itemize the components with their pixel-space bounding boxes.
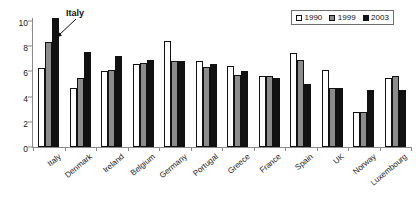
bar-germany-2003 xyxy=(178,61,185,147)
x-axis-tick-mark xyxy=(348,147,349,151)
x-axis-label-ireland: Ireland xyxy=(101,152,126,175)
hollow-square-icon xyxy=(296,15,302,21)
x-axis-label-germany: Germany xyxy=(158,152,189,180)
x-axis-tick-mark xyxy=(254,147,255,151)
x-axis-label-france: France xyxy=(258,152,283,175)
y-axis-tick-label: 0 xyxy=(23,144,32,154)
x-axis-label-italy: Italy xyxy=(46,152,63,168)
bar-luxembourg-1999 xyxy=(392,76,399,147)
black-square-icon xyxy=(363,15,369,21)
bar-italy-1990 xyxy=(38,68,45,147)
bar-luxembourg-1990 xyxy=(385,78,392,147)
y-axis-tick: 6 xyxy=(0,62,32,80)
legend-item-2003: 2003 xyxy=(363,13,389,22)
bar-group xyxy=(380,18,412,147)
x-axis-tick-mark xyxy=(222,147,223,151)
bar-spain-1990 xyxy=(290,53,297,148)
legend-item-label: 1999 xyxy=(338,13,356,22)
bar-norway-1999 xyxy=(360,112,367,147)
y-axis-tick-mark xyxy=(28,121,32,122)
bar-spain-1999 xyxy=(297,60,304,147)
y-axis-tick-mark xyxy=(28,147,32,148)
y-axis-tick-label: 6 xyxy=(23,68,32,78)
y-axis-tick-mark xyxy=(28,46,32,47)
y-axis-tick-label: 10 xyxy=(19,18,32,28)
bar-ireland-2003 xyxy=(115,56,122,147)
x-axis-tick-mark xyxy=(317,147,318,151)
bar-denmark-1990 xyxy=(70,88,77,147)
bar-uk-1999 xyxy=(329,88,336,147)
x-axis-tick-mark xyxy=(33,147,34,151)
bar-italy-1999 xyxy=(45,42,52,147)
bar-france-1990 xyxy=(259,76,266,147)
bar-portugal-1990 xyxy=(196,61,203,147)
bar-denmark-2003 xyxy=(84,52,91,147)
bar-denmark-1999 xyxy=(77,78,84,147)
bar-spain-2003 xyxy=(304,84,311,147)
bar-uk-2003 xyxy=(336,88,343,147)
x-axis-tick-mark xyxy=(411,147,412,151)
bar-group xyxy=(65,18,97,147)
x-axis-tick-mark xyxy=(96,147,97,151)
plot-area xyxy=(33,18,411,147)
bar-greece-1999 xyxy=(234,75,241,147)
bar-chart: 1086420 ItalyDenmarkIrelandBelgiumGerman… xyxy=(0,0,416,207)
y-axis-tick: 10 xyxy=(0,12,32,30)
bar-ireland-1999 xyxy=(108,70,115,147)
y-axis-tick-label: 2 xyxy=(23,119,32,129)
x-axis-label-norway: Norway xyxy=(351,152,378,176)
x-axis-tick-mark xyxy=(65,147,66,151)
y-axis-tick-mark xyxy=(28,96,32,97)
legend: 199019992003 xyxy=(291,10,394,25)
x-axis-label-portugal: Portugal xyxy=(191,152,220,178)
bar-group xyxy=(254,18,286,147)
y-axis-tick: 2 xyxy=(0,113,32,131)
y-axis-tick-mark xyxy=(28,21,32,22)
bar-norway-2003 xyxy=(367,90,374,147)
bar-group xyxy=(222,18,254,147)
bar-france-2003 xyxy=(273,78,280,147)
bar-portugal-2003 xyxy=(210,64,217,147)
y-axis-tick: 8 xyxy=(0,37,32,55)
bar-norway-1990 xyxy=(353,112,360,147)
bar-germany-1999 xyxy=(171,61,178,147)
annotation-label-italy: Italy xyxy=(66,8,84,18)
x-axis-label-belgium: Belgium xyxy=(129,152,157,177)
bar-group xyxy=(128,18,160,147)
bar-belgium-1990 xyxy=(133,64,140,147)
bar-group xyxy=(96,18,128,147)
x-axis-label-denmark: Denmark xyxy=(63,152,94,180)
y-axis-tick-label: 4 xyxy=(23,94,32,104)
y-axis-tick-mark xyxy=(28,71,32,72)
y-axis-tick: 4 xyxy=(0,88,32,106)
bar-greece-1990 xyxy=(227,66,234,147)
y-axis-tick-label: 8 xyxy=(23,43,32,53)
bar-greece-2003 xyxy=(241,71,248,147)
x-axis-label-spain: Spain xyxy=(293,152,314,172)
bar-group xyxy=(191,18,223,147)
x-axis-tick-mark xyxy=(159,147,160,151)
x-axis-label-uk: UK xyxy=(332,152,346,166)
bar-italy-2003 xyxy=(52,18,59,147)
bar-group xyxy=(159,18,191,147)
x-axis-tick-mark xyxy=(285,147,286,151)
x-axis-tick-mark xyxy=(380,147,381,151)
bar-group xyxy=(317,18,349,147)
bar-group xyxy=(33,18,65,147)
bar-france-1999 xyxy=(266,76,273,147)
bar-portugal-1999 xyxy=(203,67,210,147)
bar-belgium-1999 xyxy=(140,63,147,147)
legend-item-label: 2003 xyxy=(371,13,389,22)
x-axis-label-greece: Greece xyxy=(226,152,252,176)
legend-item-1990: 1990 xyxy=(296,13,322,22)
bar-group xyxy=(348,18,380,147)
bar-belgium-2003 xyxy=(147,60,154,147)
x-axis-tick-mark xyxy=(191,147,192,151)
y-axis-tick: 0 xyxy=(0,138,32,156)
legend-item-1999: 1999 xyxy=(329,13,355,22)
legend-item-label: 1990 xyxy=(305,13,323,22)
bar-luxembourg-2003 xyxy=(399,90,406,147)
bar-germany-1990 xyxy=(164,41,171,147)
x-axis-tick-mark xyxy=(128,147,129,151)
bar-uk-1990 xyxy=(322,70,329,147)
